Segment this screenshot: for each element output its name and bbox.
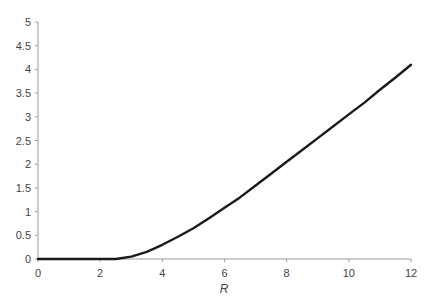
x-axis: 024681012 (35, 259, 417, 279)
series-line (38, 65, 411, 259)
y-tick-label: 2.5 (16, 135, 31, 147)
x-tick-label: 6 (221, 267, 227, 279)
y-tick-label: 1.5 (16, 182, 31, 194)
y-tick-label: 4 (25, 63, 31, 75)
y-tick-label: 2 (25, 158, 31, 170)
y-tick-label: 4.5 (16, 40, 31, 52)
y-tick-label: 3 (25, 111, 31, 123)
x-tick-label: 12 (405, 267, 417, 279)
x-tick-label: 8 (284, 267, 290, 279)
y-tick-label: 0.5 (16, 229, 31, 241)
x-axis-title: R (220, 282, 229, 296)
y-tick-label: 0 (25, 253, 31, 265)
x-tick-label: 10 (343, 267, 355, 279)
x-tick-label: 0 (35, 267, 41, 279)
y-tick-label: 1 (25, 206, 31, 218)
y-axis: 00.511.522.533.544.55 (16, 16, 38, 265)
y-tick-label: 3.5 (16, 87, 31, 99)
x-tick-label: 4 (159, 267, 165, 279)
line-chart: 00.511.522.533.544.55 024681012 R (0, 0, 430, 305)
x-tick-label: 2 (97, 267, 103, 279)
plot-area (38, 65, 411, 259)
y-tick-label: 5 (25, 16, 31, 28)
